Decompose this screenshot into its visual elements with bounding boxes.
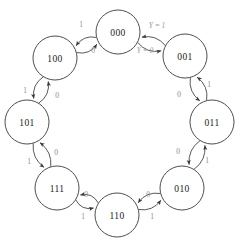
state-node-101[interactable]: 101 [5,100,49,144]
transition-arrow [197,77,207,100]
transition-input-label: 1 [207,80,211,89]
state-label: 010 [174,184,189,194]
state-node-111[interactable]: 111 [35,166,79,210]
transition-output-label: Y = 1 [149,21,166,30]
transition-input-label: 0 [91,46,95,55]
state-label: 100 [47,54,62,64]
transition-arrow [194,145,205,169]
transition-arrow [80,194,98,203]
transition-input-label: 0 [176,147,180,156]
state-label: 011 [204,118,219,128]
transition-input-label: 1 [81,212,85,221]
transition-arrow [40,143,51,167]
state-label: 110 [109,211,124,221]
states-layer: 000001011010110111101100 [5,10,234,237]
state-label: 111 [50,184,65,194]
state-node-110[interactable]: 110 [95,193,139,237]
transition-input-label: 0 [84,190,88,199]
state-node-010[interactable]: 010 [160,166,204,210]
transition-arrow [142,37,166,46]
transition-input-label: 1 [150,212,154,221]
state-node-001[interactable]: 001 [163,34,207,78]
state-label: 001 [177,52,192,62]
fsm-diagram: 000001011010110111101100 Y = 1Y = 010101… [0,0,240,242]
transition-input-label: 0 [146,190,150,199]
state-label: 101 [19,118,34,128]
state-label: 000 [110,28,125,38]
transition-arrow [76,37,96,46]
state-node-100[interactable]: 100 [33,36,77,80]
state-node-000[interactable]: 000 [96,10,140,54]
transition-input-label: 0 [55,91,59,100]
transition-arrow [190,78,200,101]
transition-arrow [139,200,161,210]
transition-arrow [76,200,94,209]
transition-input-label: 1 [79,20,83,29]
state-diagram-canvas: 000001011010110111101100 Y = 1Y = 010101… [0,0,240,242]
transition-input-label: 1 [23,86,27,95]
transition-input-label: 1 [205,156,209,165]
transition-arrow [33,143,44,167]
transition-output-label: Y = 0 [137,46,154,55]
transition-input-label: 0 [54,148,58,157]
state-node-011[interactable]: 011 [190,100,234,144]
transition-input-label: 0 [177,90,181,99]
transition-input-label: 1 [27,157,31,166]
transition-arrow [189,141,200,165]
transition-arrow [39,81,49,103]
transition-arrow [33,77,43,99]
